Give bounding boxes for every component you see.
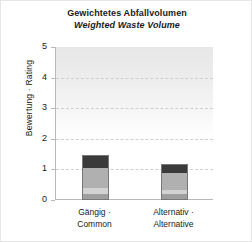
gridline: [56, 108, 213, 109]
chart-title-primary: Gewichtetes Abfallvolumen: [1, 7, 252, 19]
bar-segment-segment-4: [83, 156, 108, 168]
x-axis-tick-label-line1: Alternativ ·: [126, 206, 222, 218]
bar-1: [83, 156, 108, 199]
plot-area: [55, 47, 213, 200]
x-axis-tick-label-line2: Alternative: [126, 218, 222, 230]
x-axis-tick-label: Alternativ ·Alternative: [126, 206, 222, 230]
gridline: [56, 139, 213, 140]
bar-segment-segment-1: [83, 194, 108, 199]
gridline: [56, 169, 213, 170]
chart-figure: Gewichtetes Abfallvolumen Weighted Waste…: [0, 0, 252, 242]
bar-segment-segment-3: [83, 168, 108, 188]
y-axis-tick-label: 3: [27, 102, 47, 112]
bar-segment-segment-4: [162, 165, 187, 173]
y-axis-tick-label: 0: [27, 194, 47, 204]
bar-segment-segment-3: [162, 173, 187, 190]
y-axis-tick-label: 4: [27, 72, 47, 82]
y-axis-tick-label: 2: [27, 133, 47, 143]
chart-title-block: Gewichtetes Abfallvolumen Weighted Waste…: [1, 7, 252, 31]
y-axis-tick-label: 5: [27, 41, 47, 51]
chart-title-secondary: Weighted Waste Volume: [1, 19, 252, 31]
plot-inner: [56, 47, 213, 199]
y-axis-tick-label: 1: [27, 163, 47, 173]
bar-segment-segment-1: [162, 194, 187, 199]
bar-2: [162, 165, 187, 199]
y-axis-tick-mark: [51, 200, 55, 201]
gridline: [56, 78, 213, 79]
